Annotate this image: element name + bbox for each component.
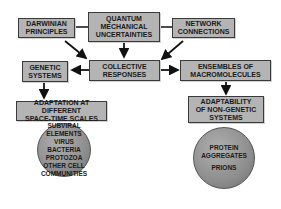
circle-item-subviral: SUBVIRAL ELEMENTS (46, 122, 81, 138)
genetic-systems-node: GENETIC SYSTEMS (22, 61, 68, 82)
network-connections-node: NETWORK CONNECTIONS (172, 18, 235, 38)
circle-item-protein-aggregates: PROTEIN AGGREGATES (201, 144, 247, 160)
circle-item-prions: PRIONS (212, 164, 237, 172)
adaptation-space-time-node: ADAPTATION AT DIFFERENT SPACE-TIME SCALE… (16, 101, 107, 121)
non-genetic-circle: PROTEIN AGGREGATES PRIONS (193, 127, 255, 189)
circle-item-cell-communities: OTHER CELL COMMUNITIES (41, 162, 87, 178)
collective-responses-node: COLLECTIVE RESPONSES (89, 60, 160, 81)
circle-item-bacteria: BACTERIA (47, 146, 81, 154)
circle-item-protozoa: PROTOZOA (46, 154, 83, 162)
ensembles-of-macromolecules-node: ENSEMBLES OF MACROMOLECULES (180, 60, 271, 81)
darwinian-principles-node: DARWINIAN PRINCIPLES (18, 18, 75, 38)
organisms-circle: SUBVIRAL ELEMENTS VIRUS BACTERIA PROTOZO… (37, 123, 91, 177)
circle-item-virus: VIRUS (54, 138, 74, 146)
adaptability-non-genetic-node: ADAPTABILITY OF NON-GENETIC SYSTEMS (188, 96, 264, 123)
quantum-uncertainties-node: QUANTUM MECHANICAL UNCERTAINTIES (88, 12, 160, 42)
